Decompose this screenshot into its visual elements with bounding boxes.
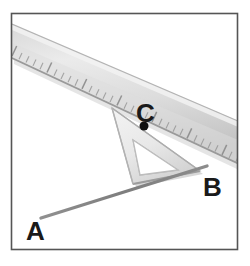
label-point-b: B [203,172,222,202]
geometry-figure: A B C [0,0,250,266]
ruler-tick [243,158,246,164]
figure-canvas: A B C [0,0,250,266]
label-point-a: A [26,216,45,246]
label-point-c: C [136,98,155,128]
